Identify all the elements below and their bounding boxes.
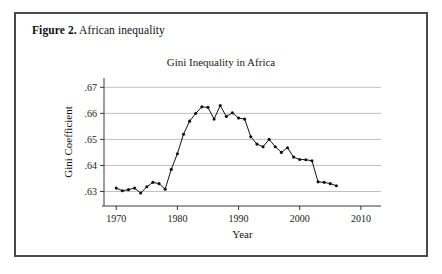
data-point bbox=[292, 156, 295, 159]
data-point bbox=[335, 184, 338, 187]
data-point bbox=[268, 138, 271, 141]
data-point bbox=[298, 158, 301, 161]
y-axis-title: Gini Coefficient bbox=[62, 106, 74, 178]
data-point bbox=[255, 143, 258, 146]
data-point bbox=[176, 152, 179, 155]
x-tick-label-2000: 2000 bbox=[290, 213, 310, 224]
data-point bbox=[151, 181, 154, 184]
data-point bbox=[182, 133, 185, 136]
data-point bbox=[231, 111, 234, 114]
data-point bbox=[329, 182, 332, 185]
data-point bbox=[158, 182, 161, 185]
data-point bbox=[304, 158, 307, 161]
data-point bbox=[280, 151, 283, 154]
data-point bbox=[219, 104, 222, 107]
data-point bbox=[115, 187, 118, 190]
data-point bbox=[323, 181, 326, 184]
data-point bbox=[139, 192, 142, 195]
data-point bbox=[133, 187, 136, 190]
data-point bbox=[225, 115, 228, 118]
x-tick-label-2010: 2010 bbox=[351, 213, 371, 224]
y-tick-label-.64: .64 bbox=[85, 160, 98, 171]
chart-container: Gini Inequality in Africa .63.64.65.66.6… bbox=[14, 12, 428, 257]
data-point bbox=[310, 159, 313, 162]
x-tick-label-1980: 1980 bbox=[167, 213, 187, 224]
x-axis-title: Year bbox=[232, 228, 253, 240]
y-tick-label-.63: .63 bbox=[85, 186, 98, 197]
data-point bbox=[213, 118, 216, 121]
data-point bbox=[317, 180, 320, 183]
y-tick-label-.65: .65 bbox=[85, 134, 98, 145]
data-point bbox=[127, 188, 130, 191]
x-tick-label-1970: 1970 bbox=[106, 213, 126, 224]
data-point bbox=[145, 185, 148, 188]
y-tick-label-.67: .67 bbox=[85, 82, 98, 93]
data-point bbox=[200, 105, 203, 108]
data-point bbox=[274, 145, 277, 148]
data-point bbox=[194, 112, 197, 115]
data-point bbox=[261, 145, 264, 148]
data-point bbox=[286, 146, 289, 149]
data-point bbox=[249, 135, 252, 138]
data-point bbox=[164, 188, 167, 191]
y-tick-label-.66: .66 bbox=[85, 108, 98, 119]
data-point bbox=[237, 116, 240, 119]
x-tick-label-1990: 1990 bbox=[229, 213, 249, 224]
data-point bbox=[206, 106, 209, 109]
series-line-0 bbox=[116, 106, 336, 194]
gini-line-chart: .63.64.65.66.6719701980199020002010YearG… bbox=[14, 12, 428, 257]
chart-title: Gini Inequality in Africa bbox=[14, 56, 428, 68]
data-point bbox=[170, 168, 173, 171]
data-point bbox=[188, 120, 191, 123]
data-point bbox=[243, 118, 246, 121]
data-point bbox=[121, 189, 124, 192]
